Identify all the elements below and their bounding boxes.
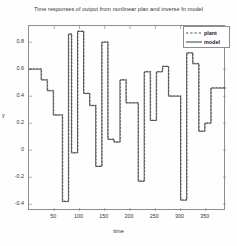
series-canvas [29, 26, 226, 211]
legend: plant model [183, 26, 230, 48]
x-tick-label: 250 [144, 213, 164, 219]
x-tick-label: 200 [119, 213, 139, 219]
x-tick-label: 50 [43, 213, 63, 219]
legend-line-dashed-icon [186, 30, 202, 36]
y-tick-label: 0 [2, 146, 24, 152]
legend-item-plant[interactable]: plant [186, 29, 227, 38]
series-line-model [29, 31, 226, 201]
y-axis-label: y [2, 112, 5, 118]
y-tick-label: -0.4 [2, 200, 24, 206]
x-tick-label: 350 [195, 213, 215, 219]
figure-canvas: Time responses of output from nonlinear … [0, 0, 237, 246]
plot-area [28, 25, 225, 210]
y-tick-label: 0.6 [2, 65, 24, 71]
x-tick-label: 100 [69, 213, 89, 219]
x-axis-label: time [0, 228, 237, 234]
y-tick-label: -0.2 [2, 173, 24, 179]
y-tick-label: 0.8 [2, 38, 24, 44]
y-tick-label: 0.4 [2, 92, 24, 98]
y-tick-label: 0.2 [2, 119, 24, 125]
series-line-plant [29, 31, 226, 201]
x-tick-label: 150 [94, 213, 114, 219]
page-title: Time responses of output from nonlinear … [0, 6, 237, 12]
legend-label-model: model [204, 39, 220, 45]
legend-item-model[interactable]: model [186, 38, 227, 47]
x-tick-label: 300 [170, 213, 190, 219]
legend-label-plant: plant [204, 30, 217, 36]
legend-line-solid-icon [186, 39, 202, 45]
